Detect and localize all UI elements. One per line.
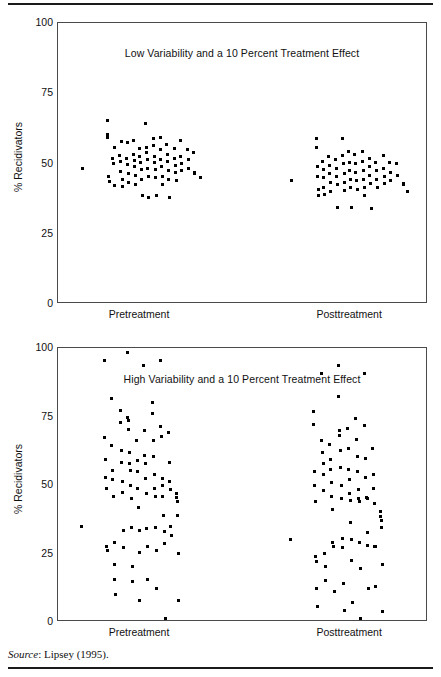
scatter-point <box>355 438 358 441</box>
scatter-point <box>128 462 131 465</box>
scatter-point <box>320 372 323 375</box>
scatter-point <box>313 484 316 487</box>
scatter-point <box>354 417 357 420</box>
scatter-point <box>362 178 365 181</box>
scatter-point <box>340 484 343 487</box>
scatter-point <box>339 466 342 469</box>
scatter-point <box>350 538 353 541</box>
scatter-point <box>154 176 157 179</box>
y-tick-label: 0 <box>25 297 53 309</box>
scatter-point <box>111 478 114 481</box>
scatter-point <box>144 477 147 480</box>
scatter-point <box>81 167 84 170</box>
scatter-point <box>161 183 164 186</box>
scatter-point <box>121 178 124 181</box>
scatter-point <box>355 179 358 182</box>
scatter-point <box>125 157 128 160</box>
scatter-point <box>340 497 343 500</box>
scatter-point <box>380 526 383 529</box>
scatter-point <box>167 169 170 172</box>
scatter-point <box>177 552 180 555</box>
scatter-point <box>187 158 190 161</box>
scatter-point <box>371 447 374 450</box>
scatter-point <box>164 617 167 620</box>
scatter-point <box>175 496 178 499</box>
bottom-divider-rule <box>8 667 433 669</box>
scatter-point <box>347 150 350 153</box>
plot-area-1: Low Variability and a 10 Percent Treatme… <box>57 22 427 303</box>
scatter-point <box>159 359 162 362</box>
scatter-point <box>145 527 148 530</box>
scatter-point <box>169 525 172 528</box>
scatter-point <box>122 529 125 532</box>
scatter-point <box>333 590 336 593</box>
scatter-point <box>154 526 157 529</box>
scatter-point <box>119 160 122 163</box>
scatter-point <box>363 194 366 197</box>
scatter-point <box>174 171 177 174</box>
scatter-point <box>126 141 129 144</box>
scatter-point <box>147 175 150 178</box>
scatter-point <box>314 555 317 558</box>
scatter-point <box>146 545 149 548</box>
x-axis-ticks-1: PretreatmentPosttreatment <box>57 308 427 324</box>
scatter-point <box>153 473 156 476</box>
scatter-point <box>121 185 124 188</box>
scatter-point <box>359 617 362 620</box>
scatter-point <box>347 468 350 471</box>
scatter-point <box>332 545 335 548</box>
scatter-point <box>136 470 139 473</box>
scatter-point <box>159 136 162 139</box>
scatter-point <box>337 364 340 367</box>
scatter-point <box>335 167 338 170</box>
scatter-point <box>153 155 156 158</box>
scatter-point <box>396 174 399 177</box>
scatter-point <box>120 461 123 464</box>
scatter-point <box>348 161 351 164</box>
scatter-point <box>133 165 136 168</box>
x-tick-label-pretreatment: Pretreatment <box>109 308 170 320</box>
y-axis-label-1: % Recidivators <box>12 112 24 202</box>
scatter-point <box>328 164 331 167</box>
x-tick-label-posttreatment: Posttreatment <box>317 308 382 320</box>
scatter-point <box>119 170 122 173</box>
scatter-point <box>154 168 157 171</box>
figure-container: Low Variability and a 10 Percent Treatme… <box>0 0 441 677</box>
scatter-point <box>177 599 180 602</box>
scatter-point <box>160 165 163 168</box>
scatter-point <box>121 480 124 483</box>
scatter-point <box>144 462 147 465</box>
scatter-point <box>105 487 108 490</box>
scatter-point <box>147 196 150 199</box>
scatter-point <box>363 186 366 189</box>
scatter-point <box>161 484 164 487</box>
scatter-point <box>379 515 382 518</box>
scatter-point <box>359 567 362 570</box>
scatter-point <box>113 578 116 581</box>
scatter-point <box>127 428 130 431</box>
scatter-point <box>331 508 334 511</box>
scatter-point <box>349 499 352 502</box>
scatter-point <box>153 487 156 490</box>
scatter-point <box>152 144 155 147</box>
scatter-point <box>327 155 330 158</box>
scatter-point <box>106 133 109 136</box>
scatter-point <box>113 563 116 566</box>
y-axis-ticks-2: 0255075100 <box>25 347 53 621</box>
top-divider-rule <box>8 3 433 5</box>
scatter-point <box>346 427 349 430</box>
scatter-point <box>162 514 165 517</box>
scatter-point <box>136 459 139 462</box>
scatter-points-2 <box>58 348 426 620</box>
scatter-point <box>80 525 83 528</box>
scatter-point <box>322 168 325 171</box>
scatter-point <box>114 593 117 596</box>
y-tick-label: 25 <box>25 227 53 239</box>
scatter-point <box>358 500 361 503</box>
scatter-point <box>118 154 121 157</box>
scatter-point <box>383 182 386 185</box>
scatter-point <box>121 491 124 494</box>
y-tick-label: 100 <box>25 341 53 353</box>
scatter-point <box>167 431 170 434</box>
scatter-point <box>192 151 195 154</box>
